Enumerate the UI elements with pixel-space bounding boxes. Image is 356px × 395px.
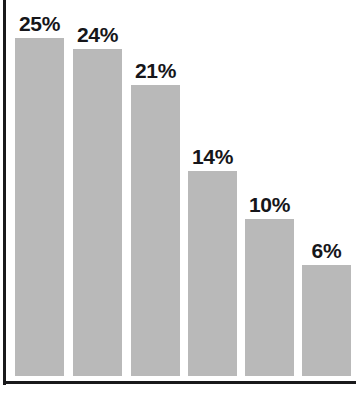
bar-value-label: 25% (19, 13, 60, 34)
bar-value-label: 21% (135, 60, 176, 81)
bar-value-label: 6% (312, 240, 342, 261)
bar-group: 25% (15, 38, 64, 376)
y-axis-line (3, 0, 6, 385)
bar-group: 24% (73, 49, 122, 376)
bar-group: 6% (302, 265, 351, 376)
bar-chart: 25% 24% 21% 14% 10% 6% (0, 0, 356, 395)
bar-value-label: 14% (192, 146, 233, 167)
bar-group: 14% (188, 171, 237, 376)
bar[interactable] (131, 85, 180, 376)
plot-area: 25% 24% 21% 14% 10% 6% (0, 0, 356, 395)
bar-value-label: 10% (249, 194, 290, 215)
bar-group: 10% (245, 219, 294, 376)
bar-group: 21% (131, 85, 180, 376)
bar-value-label: 24% (77, 24, 118, 45)
bar[interactable] (245, 219, 294, 376)
bar[interactable] (188, 171, 237, 376)
bar[interactable] (73, 49, 122, 376)
bar[interactable] (15, 38, 64, 376)
x-axis-line (3, 381, 356, 384)
bar[interactable] (302, 265, 351, 376)
